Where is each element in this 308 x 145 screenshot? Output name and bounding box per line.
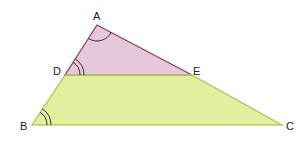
label-E: E xyxy=(193,65,200,77)
triangle-ADE xyxy=(65,25,192,75)
trapezoid-DBCE xyxy=(32,75,282,125)
similar-triangles-diagram: A D E B C xyxy=(0,0,308,145)
label-B: B xyxy=(20,120,27,132)
label-A: A xyxy=(93,10,101,22)
label-D: D xyxy=(53,65,61,77)
label-C: C xyxy=(286,120,294,132)
